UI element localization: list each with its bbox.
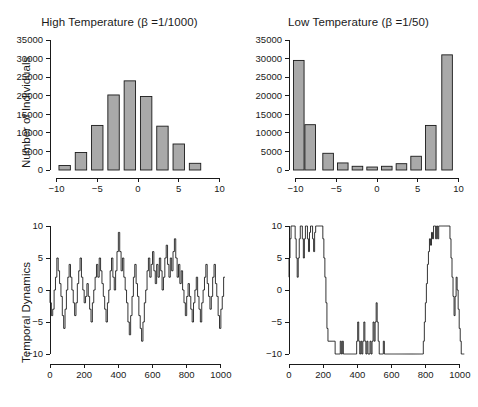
y-axis-label-temporal-dynamics: Temporal Dynamics [20, 262, 32, 363]
y-axis-tick-label: 35000 [17, 34, 43, 45]
histogram-low-temperature-svg: 05000100001500020000250003000035000−10−5… [239, 8, 478, 208]
x-axis-tick-label: 400 [110, 369, 126, 380]
histogram-bar [59, 166, 70, 170]
histogram-bar [381, 166, 392, 170]
panel-title-low-temperature: Low Temperature (β =1/50) [239, 16, 478, 28]
x-axis-tick-label: 600 [145, 369, 161, 380]
histogram-bar [396, 164, 407, 170]
histogram-bar [425, 125, 436, 170]
histogram-bar [189, 163, 200, 170]
panel-timeseries-low-temperature: −10−5051002004006008001000 [239, 208, 478, 407]
histogram-bar [293, 60, 304, 170]
x-axis-tick-label: 10 [453, 183, 464, 194]
histogram-high-temperature-svg: 05000100001500020000250003000035000−10−5… [0, 8, 239, 208]
y-axis-tick-label: 0 [38, 164, 43, 175]
histogram-bar [352, 166, 363, 170]
y-axis-tick-label: 0 [38, 284, 43, 295]
panel-histogram-low-temperature: Low Temperature (β =1/50) 05000100001500… [239, 8, 478, 208]
x-axis-tick-label: 600 [384, 369, 400, 380]
histogram-bar [157, 126, 168, 170]
x-axis-tick-label: 400 [349, 369, 365, 380]
y-axis-tick-label: 10 [271, 220, 282, 231]
histogram-bar [140, 96, 151, 170]
x-axis-tick-label: 5 [176, 183, 181, 194]
x-axis-tick-label: −10 [48, 183, 64, 194]
histogram-bar [442, 55, 453, 170]
y-axis-tick-label: −10 [266, 348, 282, 359]
histogram-bar [173, 144, 184, 170]
timeseries-line [50, 232, 225, 341]
figure-panel-grid: High Temperature (β =1/1000) Number of I… [0, 0, 478, 407]
timeseries-high-temperature-svg: −10−5051002004006008001000 [0, 208, 239, 407]
x-axis-tick-label: 1000 [449, 369, 470, 380]
x-axis-tick-label: 0 [374, 183, 379, 194]
x-axis-tick-label: 0 [286, 369, 291, 380]
y-axis-tick-label: 5 [38, 252, 43, 263]
y-axis-label-number-of-individuals: Number of Individuals [20, 57, 32, 168]
y-axis-tick-label: 35000 [256, 34, 282, 45]
y-axis-tick-label: 15000 [256, 109, 282, 120]
y-axis-tick-label: 0 [277, 284, 282, 295]
x-axis-tick-label: 10 [214, 183, 225, 194]
histogram-bar [337, 163, 348, 170]
timeseries-line [289, 226, 464, 354]
panel-title-high-temperature: High Temperature (β =1/1000) [0, 16, 239, 28]
y-axis-tick-label: 25000 [256, 71, 282, 82]
timeseries-low-temperature-svg: −10−5051002004006008001000 [239, 208, 478, 407]
x-axis-tick-label: 800 [418, 369, 434, 380]
y-axis-tick-label: 30000 [256, 53, 282, 64]
histogram-bar [92, 125, 103, 170]
y-axis-tick-label: 10 [32, 220, 43, 231]
x-axis-tick-label: −5 [92, 183, 103, 194]
x-axis-tick-label: 200 [315, 369, 331, 380]
histogram-bar [367, 167, 378, 170]
x-axis-tick-label: 200 [76, 369, 92, 380]
histogram-bar [75, 153, 86, 170]
y-axis-tick-label: 0 [277, 164, 282, 175]
histogram-bar [124, 81, 135, 170]
y-axis-tick-label: 5000 [261, 146, 282, 157]
x-axis-tick-label: 5 [415, 183, 420, 194]
y-axis-tick-label: 20000 [256, 90, 282, 101]
x-axis-tick-label: 0 [47, 369, 52, 380]
y-axis-tick-label: 5 [277, 252, 282, 263]
x-axis-tick-label: 1000 [210, 369, 231, 380]
y-axis-tick-label: 10000 [256, 127, 282, 138]
histogram-bar [411, 156, 422, 170]
x-axis-tick-label: −5 [331, 183, 342, 194]
x-axis-tick-label: 800 [179, 369, 195, 380]
x-axis-tick-label: 0 [135, 183, 140, 194]
y-axis-tick-label: −5 [271, 316, 282, 327]
histogram-bar [323, 153, 334, 170]
y-axis-tick-label: −5 [32, 316, 43, 327]
histogram-bar [108, 95, 119, 170]
panel-histogram-high-temperature: High Temperature (β =1/1000) Number of I… [0, 8, 239, 208]
panel-timeseries-high-temperature: Temporal Dynamics −10−505100200400600800… [0, 208, 239, 407]
histogram-bar [305, 125, 316, 170]
x-axis-tick-label: −10 [287, 183, 303, 194]
